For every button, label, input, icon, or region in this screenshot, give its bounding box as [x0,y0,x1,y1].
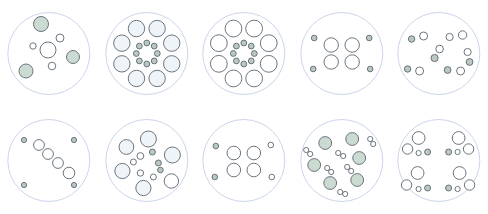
stimulus-circle [416,67,424,75]
stimulus-circle [137,170,143,176]
stimulus-panel-9[interactable] [293,107,391,214]
stimulus-circle [425,149,431,155]
stimulus-circle [353,152,366,165]
stimulus-circle [351,174,364,187]
stimulus-circle [269,174,275,180]
stimulus-circle [246,70,263,87]
stimulus-circle [66,51,79,64]
stimulus-panel-8[interactable] [195,107,293,214]
stimulus-circle [164,147,180,163]
four-medium-cluster-with-corner-dots [293,0,391,107]
stimulus-panel-6[interactable] [0,107,98,214]
panel-enclosure [8,120,90,202]
stimulus-panel-7[interactable] [98,107,196,214]
stimulus-circle [445,67,452,74]
stimulus-circle [459,31,467,39]
stimulus-circle [344,164,349,169]
stimulus-panel-4[interactable] [293,0,391,107]
stimulus-circle [212,174,218,180]
stimulus-circle [149,149,155,155]
stimulus-circle [143,61,149,67]
stimulus-circle [249,58,255,64]
stimulus-circle [19,64,33,78]
stimulus-circle [133,51,139,57]
stimulus-circle [71,137,76,142]
stimulus-circle [225,20,242,37]
stimulus-figure [0,0,488,214]
stimulus-circle [164,174,178,188]
stimulus-circle [234,43,240,49]
stimulus-circle [446,149,452,155]
stimulus-circle [319,137,332,150]
stimulus-circle [140,131,156,147]
stimulus-panel-2[interactable] [98,0,196,107]
scattered-small-dots-ring [390,0,488,107]
stimulus-circle [409,36,415,42]
stimulus-circle [431,54,438,61]
stimulus-circle [163,56,179,72]
stimulus-circle [342,191,347,196]
stimulus-circle [425,185,431,191]
stimulus-circle [34,140,45,151]
stimulus-circle [345,55,359,69]
panel-grid [0,0,488,214]
stimulus-circle [370,141,375,146]
stimulus-circle [420,32,428,40]
stimulus-circle [268,142,274,148]
stimulus-circle [307,151,312,156]
stimulus-panel-1[interactable] [0,0,98,107]
four-medium-cluster-with-corner-dots-variant [195,107,293,214]
stimulus-circle [40,42,56,58]
stimulus-circle [367,66,373,72]
stimulus-circle [151,43,157,49]
stimulus-circle [155,160,161,166]
stimulus-circle [446,33,453,40]
stimulus-circle [149,20,165,36]
stimulus-circle [246,20,263,37]
stimulus-circle [340,153,345,158]
stimulus-circle [311,35,317,41]
stimulus-circle [130,159,136,165]
stimulus-circle [413,132,426,145]
stimulus-circle [453,132,466,145]
stimulus-circle [21,137,26,142]
stimulus-circle [416,150,421,155]
stimulus-circle [56,34,64,42]
stimulus-circle [119,140,134,155]
stimulus-circle [154,51,160,57]
stimulus-circle [345,38,359,52]
stimulus-panel-3[interactable] [195,0,293,107]
stimulus-circle [113,35,129,51]
panel-enclosure [105,13,187,95]
stimulus-circle [43,149,54,160]
stimulus-circle [416,186,421,191]
stimulus-circle [231,51,237,57]
stimulus-circle [128,20,144,36]
diagonal-chain-with-corner-dots [0,107,98,214]
stimulus-circle [30,43,36,49]
stimulus-circle [163,35,179,51]
stimulus-circle [436,45,444,53]
stimulus-circle [403,144,413,154]
stimulus-circle [114,163,129,178]
panel-enclosure [203,120,285,202]
stimulus-circle [412,167,425,180]
stimulus-circle [366,35,372,41]
stimulus-circle [63,167,75,179]
stimulus-circle [252,51,258,57]
stimulus-circle [211,55,228,72]
panel-enclosure [301,13,383,95]
stimulus-circle [247,163,261,177]
stimulus-circle [247,146,261,160]
stimulus-panel-10[interactable] [390,107,488,214]
stimulus-circle [227,163,241,177]
stimulus-circle [328,169,333,174]
stimulus-circle [211,35,228,52]
stimulus-circle [71,182,76,187]
stimulus-circle [446,185,452,191]
stimulus-circle [467,59,474,66]
stimulus-circle [136,43,142,49]
stimulus-circle [454,167,467,180]
stimulus-panel-5[interactable] [390,0,488,107]
stimulus-circle [241,61,247,67]
